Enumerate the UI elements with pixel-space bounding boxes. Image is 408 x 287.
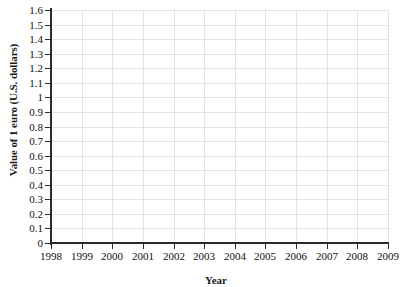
y-axis-tick [45, 10, 51, 11]
y-axis-tick-label: 1.5 [3, 19, 43, 31]
y-axis-tick [45, 141, 51, 142]
gridline-horizontal [51, 214, 388, 215]
y-axis-tick [45, 156, 51, 157]
y-axis-tick [45, 97, 51, 98]
y-axis-tick-label: 0.7 [3, 135, 43, 147]
y-axis-tick-label: 0.5 [3, 164, 43, 176]
y-axis-tick [45, 170, 51, 171]
y-axis-tick [45, 127, 51, 128]
y-axis-tick [45, 185, 51, 186]
gridline-horizontal [51, 54, 388, 55]
gridline-horizontal [51, 127, 388, 128]
gridline-horizontal [51, 39, 388, 40]
x-axis-title: Year [186, 274, 246, 287]
gridline-horizontal [51, 97, 388, 98]
y-axis-tick-label: 0.1 [3, 222, 43, 234]
gridline-vertical [327, 10, 328, 243]
y-axis-tick-label: 1.4 [3, 33, 43, 45]
y-axis-tick [45, 228, 51, 229]
gridline-horizontal [51, 170, 388, 171]
y-axis-tick [45, 83, 51, 84]
y-axis-tick-label: 0.8 [3, 121, 43, 133]
gridline-vertical [357, 10, 358, 243]
y-axis-tick-label: 1 [3, 91, 43, 103]
y-axis-tick [45, 214, 51, 215]
plot-area [51, 10, 388, 243]
gridline-vertical [174, 10, 175, 243]
gridline-horizontal [51, 112, 388, 113]
gridline-vertical [388, 10, 389, 243]
gridline-horizontal [51, 228, 388, 229]
chart-figure: Value of 1 euro (U.S. dollars) 1.61.51.4… [0, 0, 408, 287]
gridline-horizontal [51, 156, 388, 157]
y-axis-tick-label: 0 [3, 237, 43, 249]
y-axis-tick [45, 54, 51, 55]
gridline-horizontal [51, 25, 388, 26]
y-axis-tick-label: 1.3 [3, 48, 43, 60]
gridline-vertical [235, 10, 236, 243]
y-axis-tick-label: 1.2 [3, 62, 43, 74]
y-axis-tick [45, 199, 51, 200]
y-axis-tick-label: 0.6 [3, 150, 43, 162]
gridline-vertical [143, 10, 144, 243]
y-axis-tick [45, 39, 51, 40]
gridline-vertical [82, 10, 83, 243]
gridline-horizontal [51, 68, 388, 69]
y-axis-tick-label: 1.1 [3, 77, 43, 89]
y-axis-tick-label: 1.6 [3, 4, 43, 16]
gridline-horizontal [51, 10, 388, 11]
gridline-horizontal [51, 185, 388, 186]
y-axis-tick-label: 0.2 [3, 208, 43, 220]
gridline-vertical [204, 10, 205, 243]
y-axis-tick [45, 112, 51, 113]
y-axis-tick [45, 25, 51, 26]
gridline-vertical [112, 10, 113, 243]
y-axis-tick-label: 0.9 [3, 106, 43, 118]
gridline-vertical [265, 10, 266, 243]
gridline-vertical [296, 10, 297, 243]
gridline-horizontal [51, 199, 388, 200]
x-axis-tick-label: 2009 [368, 249, 408, 263]
y-axis-tick [45, 68, 51, 69]
gridline-horizontal [51, 83, 388, 84]
y-axis-tick-label: 0.4 [3, 179, 43, 191]
gridline-horizontal [51, 141, 388, 142]
y-axis-tick-label: 0.3 [3, 193, 43, 205]
x-axis-line [50, 242, 389, 244]
